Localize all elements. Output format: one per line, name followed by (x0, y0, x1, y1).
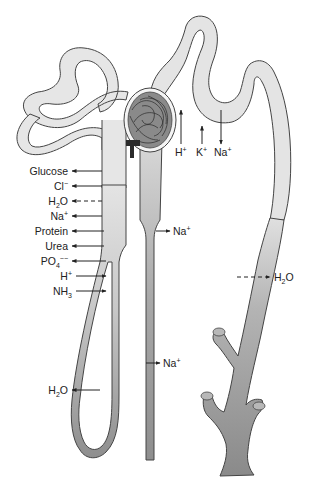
glomerulus (124, 88, 176, 158)
label-water-collecting: H2O (274, 271, 294, 283)
label-water-proximal: H2O (6, 195, 68, 207)
label-water-descending: H2O (20, 384, 68, 396)
label-hydrogen-proximal: H+ (6, 270, 72, 282)
duct-branch-end (201, 392, 213, 400)
ascending-limb (140, 140, 162, 460)
label-glucose: Glucose (6, 165, 68, 177)
label-sodium-ascending-thin: Na+ (163, 357, 181, 369)
duct-branch-end (213, 328, 225, 336)
label-phosphate: PO4−− (6, 255, 68, 267)
collecting-duct (203, 218, 284, 476)
label-sodium-distal: Na+ (214, 146, 232, 158)
label-chloride: Cl− (6, 180, 68, 192)
label-hydrogen-distal: H+ (175, 146, 187, 158)
label-potassium-distal: K+ (196, 146, 207, 158)
label-ammonia: NH3 (6, 285, 72, 297)
duct-branch-end (253, 402, 265, 410)
label-sodium-ascending-thick: Na+ (173, 225, 191, 237)
label-protein: Protein (6, 225, 68, 237)
label-sodium-proximal: Na+ (6, 210, 68, 222)
label-urea: Urea (6, 240, 68, 252)
